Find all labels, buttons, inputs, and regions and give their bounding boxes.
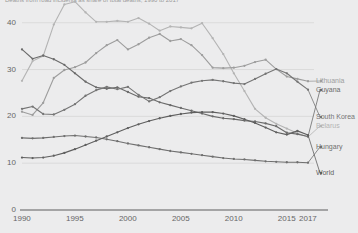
data-point [201,54,203,56]
data-point [116,131,118,133]
x-tick-label: 2005 [172,215,190,223]
data-point [127,86,129,88]
data-point [106,44,108,46]
data-point [286,75,288,77]
data-point [222,112,224,114]
data-point [148,23,150,25]
data-point [159,30,161,32]
data-point [95,21,97,23]
data-point [222,80,224,82]
y-tick-label: 10 [0,159,16,167]
data-point [212,155,214,157]
data-point [222,53,224,55]
data-point [84,95,86,97]
data-point [53,155,55,157]
data-point [169,90,171,92]
data-point [296,130,298,132]
data-point [31,58,33,60]
data-point [159,33,161,35]
data-point [254,122,256,124]
data-point [74,148,76,150]
data-point [137,17,139,19]
data-point [148,120,150,122]
data-point [116,20,118,22]
data-point [180,26,182,28]
data-point [95,140,97,142]
data-point [275,123,277,125]
data-point [116,39,118,41]
data-point [31,157,33,159]
data-point [190,44,192,46]
data-point [63,69,65,71]
data-point [137,94,139,96]
data-point [127,127,129,129]
data-point [95,89,97,91]
data-point [74,103,76,105]
data-point [106,138,108,140]
data-point [264,122,266,124]
x-tick-label: 2010 [225,215,243,223]
series-line-south-korea [22,69,308,114]
data-point [233,82,235,84]
data-point [106,21,108,23]
legend-item-world[interactable]: World [316,169,334,177]
legend-item-hungary[interactable]: Hungary [316,143,342,151]
data-point [169,104,171,106]
data-point [74,66,76,68]
data-point [212,37,214,39]
data-point [296,133,298,135]
data-point [296,78,298,80]
data-point [63,109,65,111]
data-point [169,25,171,27]
data-point [190,82,192,84]
data-point [159,148,161,150]
data-point [148,146,150,148]
data-point [222,157,224,159]
legend-leader-line [308,135,320,173]
data-point [243,158,245,160]
data-point [296,81,298,83]
data-point [31,137,33,139]
data-point [63,135,65,137]
series-line-hungary [22,136,308,163]
data-point [169,150,171,152]
data-point [95,52,97,54]
data-point [286,133,288,135]
data-point [42,113,44,115]
data-point [159,117,161,119]
legend-item-belarus[interactable]: Belarus [316,122,340,130]
data-point [201,22,203,24]
data-point [53,113,55,115]
data-point [21,48,23,50]
data-point [137,123,139,125]
data-point [63,64,65,66]
data-point [63,152,65,154]
data-point [127,142,129,144]
data-point [116,140,118,142]
data-point [21,108,23,110]
data-point [74,1,76,3]
data-point [180,38,182,40]
x-tick-label: 1990 [13,215,31,223]
chart-plot-area [0,0,358,233]
data-point [201,111,203,113]
data-point [190,27,192,29]
data-point [42,102,44,104]
data-point [116,88,118,90]
data-point [212,115,214,117]
data-point [233,115,235,117]
data-point [31,105,33,107]
data-point [264,117,266,119]
legend-item-south-korea[interactable]: South Korea [316,113,355,121]
data-point [275,125,277,127]
data-point [254,108,256,110]
data-point [190,153,192,155]
data-point [286,72,288,74]
data-point [254,159,256,161]
data-point [275,68,277,70]
legend-item-guyana[interactable]: Guyana [316,86,341,94]
data-point [21,111,23,113]
data-point [159,101,161,103]
data-point [254,61,256,63]
legend-item-lithuania[interactable]: Lithuania [316,77,344,85]
